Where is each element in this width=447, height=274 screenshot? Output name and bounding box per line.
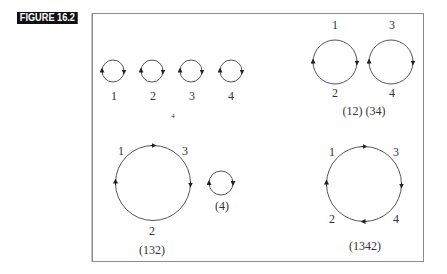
cycle-12: 1 2 (313, 18, 357, 100)
loop-node-3: 3 (180, 60, 202, 103)
node-label-3: 3 (393, 145, 399, 159)
fixed-point-caption: (4) (215, 199, 229, 213)
node-label-2: 2 (149, 224, 155, 238)
node-label-1: 1 (329, 145, 335, 159)
loop-node-4: 4 (220, 60, 242, 103)
permutation-diagram: 1 2 3 4 4 1 2 (0, 0, 447, 274)
three-cycle-caption: (132) (139, 243, 165, 257)
node-label: 2 (332, 86, 338, 100)
four-cycle-caption: (1342) (349, 239, 381, 253)
identity-caption: 4 (171, 112, 175, 120)
cycle-34: 3 4 (369, 18, 413, 100)
node-label-1: 1 (118, 144, 124, 158)
identity-panel: 1 2 3 4 4 (102, 60, 242, 120)
node-label: 4 (389, 86, 395, 100)
pair-swap-caption: (12) (34) (343, 104, 386, 118)
node-label: 2 (150, 89, 156, 103)
three-cycle-panel: 1 3 2 (132) (4) (116, 144, 234, 257)
pair-swap-panel: 1 2 3 4 (12) (34) (313, 18, 413, 118)
loop-node-1: 1 (102, 60, 124, 103)
node-label-4: 4 (393, 212, 399, 226)
node-label: 4 (228, 89, 234, 103)
node-label: 1 (332, 18, 338, 32)
node-label: 3 (389, 18, 395, 32)
fixed-point-4: (4) (209, 171, 233, 213)
node-label: 3 (189, 89, 195, 103)
node-label-2: 2 (329, 212, 335, 226)
loop-node-2: 2 (141, 60, 163, 103)
node-label-3: 3 (182, 144, 188, 158)
node-label: 1 (111, 89, 117, 103)
four-cycle-panel: 1 3 2 4 (1342) (327, 145, 402, 253)
